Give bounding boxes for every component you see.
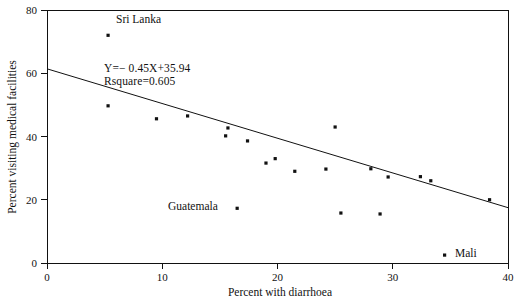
data-point-20 [488,198,491,201]
data-point-12 [334,125,337,128]
data-point-mali [443,253,446,256]
x-axis-title: Percent with diarrhoea [228,286,332,298]
plot-frame [47,10,508,263]
rsquare-text: Rsquare=0.605 [104,75,175,88]
data-point-3 [186,114,189,117]
plot-svg: 0 20 40 60 80 0 10 20 30 40 Percent with… [0,0,522,302]
y-axis-title: Percent visiting medical facilities [6,60,19,214]
data-point-14 [369,167,372,170]
point-label-sri-lanka: Sri Lanka [116,13,161,25]
regression-equation-text: Y=− 0.45X+35.94 [104,62,191,74]
data-point-13 [339,211,342,214]
data-point-16 [378,212,381,215]
x-tick-label-40: 40 [503,271,515,283]
y-tick-label-80: 80 [26,4,38,16]
y-tick-label-60: 60 [26,67,38,79]
y-tick-label-40: 40 [26,131,38,143]
x-tick-label-20: 20 [272,271,284,283]
data-point-8 [264,161,267,164]
data-point-4 [226,126,229,129]
data-point-10 [293,170,296,173]
data-point-guatemala [236,207,239,210]
regression-line [47,69,508,208]
data-point-6 [246,139,249,142]
data-point-18 [429,179,432,182]
data-point-9 [274,157,277,160]
x-tick-label-0: 0 [44,271,50,283]
data-point-11 [324,167,327,170]
data-point-1 [106,104,109,107]
data-point-sri-lanka [106,34,109,37]
y-tick-label-0: 0 [32,257,38,269]
x-tick-label-30: 30 [387,271,399,283]
data-point-2 [155,117,158,120]
scatter-plot-figure: 0 20 40 60 80 0 10 20 30 40 Percent with… [0,0,522,302]
x-tick-label-10: 10 [157,271,169,283]
data-point-17 [419,175,422,178]
data-point-5 [224,134,227,137]
data-point-15 [387,175,390,178]
point-label-mali: Mali [455,247,477,259]
point-label-guatemala: Guatemala [168,200,218,212]
y-tick-label-20: 20 [26,194,38,206]
